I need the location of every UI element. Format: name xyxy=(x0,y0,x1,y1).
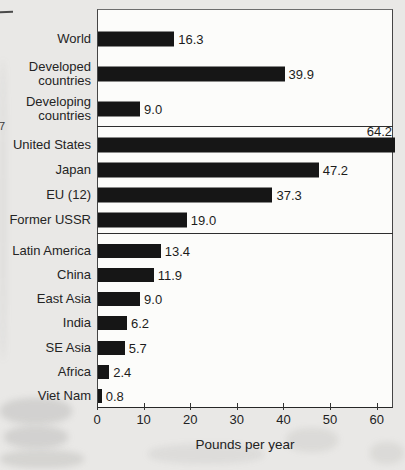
category-label: Developing countries xyxy=(0,95,97,123)
bar-value-label: 2.4 xyxy=(113,364,131,379)
axis-tick xyxy=(237,403,238,410)
bar xyxy=(98,292,140,306)
category-label: SE Asia xyxy=(0,341,97,355)
chart-row: Africa2.4 xyxy=(0,360,394,384)
axis-tick-label: 30 xyxy=(230,412,244,427)
bar-value-label: 9.0 xyxy=(144,292,162,307)
bar-value-label: 13.4 xyxy=(165,244,190,259)
bar xyxy=(98,31,174,46)
bar-value-label: 9.0 xyxy=(144,102,162,117)
axis-tick-label: 10 xyxy=(136,412,150,427)
category-label: Africa xyxy=(0,365,97,379)
axis-tick xyxy=(377,403,378,410)
bar-track: 37.3 xyxy=(97,183,394,208)
axis-tick-label: 40 xyxy=(276,412,290,427)
category-label: Developed countries xyxy=(0,60,97,88)
bar-track: 0.8 xyxy=(97,384,394,408)
bar-value-label: 37.3 xyxy=(276,188,301,203)
bar-track: 11.9 xyxy=(97,263,394,287)
bar-value-label: 47.2 xyxy=(323,162,348,177)
scan-smudge xyxy=(0,450,84,468)
bar-track: 39.9 xyxy=(97,56,394,91)
category-label: EU (12) xyxy=(0,188,97,202)
bar-value-label: 39.9 xyxy=(289,66,314,81)
axis-tick xyxy=(144,403,145,410)
chart-row: SE Asia5.7 xyxy=(0,336,394,360)
chart-row: World16.3 xyxy=(0,21,394,56)
x-axis: 0102030405060 xyxy=(97,408,393,434)
bar xyxy=(98,365,109,379)
category-label: India xyxy=(0,316,97,330)
axis-tick xyxy=(330,403,331,410)
axis-tick xyxy=(97,403,98,410)
axis-tick-label: 60 xyxy=(369,412,383,427)
bar-value-label: 0.8 xyxy=(106,388,124,403)
x-axis-title: Pounds per year xyxy=(97,437,393,452)
axis-tick xyxy=(190,403,191,410)
chart-row: Latin America13.4 xyxy=(0,239,394,263)
bar xyxy=(98,102,140,117)
scan-smudge xyxy=(4,426,68,448)
bar-track: 19.0 xyxy=(97,208,394,233)
bar-track: 16.3 xyxy=(97,21,394,56)
chart-row: East Asia9.0 xyxy=(0,287,394,311)
chart-row: India6.2 xyxy=(0,311,394,335)
category-label: Japan xyxy=(0,163,97,177)
axis-tick-label: 0 xyxy=(93,412,100,427)
axis-tick-label: 20 xyxy=(183,412,197,427)
bar-track: 47.2 xyxy=(97,157,394,182)
bar-track: 5.7 xyxy=(97,336,394,360)
category-label: East Asia xyxy=(0,292,97,306)
bar-track: 2.4 xyxy=(97,360,394,384)
chart-row: China11.9 xyxy=(0,263,394,287)
bar xyxy=(98,213,187,228)
category-label: United States xyxy=(0,138,97,152)
chart-row: EU (12)37.3 xyxy=(0,183,394,208)
category-label: Latin America xyxy=(0,244,97,258)
bar-track: 9.0 xyxy=(97,92,394,127)
bar xyxy=(98,66,285,81)
bar xyxy=(98,389,102,403)
chart-row: United States64.2 xyxy=(0,132,394,157)
bar xyxy=(98,188,272,203)
bar-value-label: 19.0 xyxy=(191,213,216,228)
bar-track: 6.2 xyxy=(97,311,394,335)
bar-chart: World16.3Developed countries39.9Developi… xyxy=(0,9,394,408)
chart-group-world-aggregates: World16.3Developed countries39.9Developi… xyxy=(0,9,394,127)
bar xyxy=(98,162,319,177)
bar xyxy=(98,268,154,282)
chart-group-developed-regions: United States64.2Japan47.2EU (12)37.3For… xyxy=(0,127,394,233)
bar-track: 9.0 xyxy=(97,287,394,311)
bar-value-label: 6.2 xyxy=(131,316,149,331)
bar xyxy=(98,137,395,152)
bar-track: 13.4 xyxy=(97,239,394,263)
chart-row: Viet Nam0.8 xyxy=(0,384,394,408)
chart-row: Developing countries9.0 xyxy=(0,92,394,127)
category-label: China xyxy=(0,268,97,282)
axis-tick xyxy=(283,403,284,410)
chart-row: Former USSR19.0 xyxy=(0,208,394,233)
bar-value-label: 5.7 xyxy=(129,340,147,355)
bar xyxy=(98,244,161,258)
bar-track: 64.2 xyxy=(97,132,394,157)
chart-group-developing-regions: Latin America13.4China11.9East Asia9.0In… xyxy=(0,233,394,408)
bar xyxy=(98,316,127,330)
chart-row: Developed countries39.9 xyxy=(0,56,394,91)
category-label: Viet Nam xyxy=(0,389,97,403)
bar-value-label: 64.2 xyxy=(367,124,392,139)
scanned-figure-page: 7 World16.3Developed countries39.9Develo… xyxy=(0,0,405,470)
bar xyxy=(98,341,125,355)
chart-row: Japan47.2 xyxy=(0,157,394,182)
category-label: Former USSR xyxy=(0,213,97,227)
bar-value-label: 11.9 xyxy=(158,268,182,283)
axis-tick-label: 50 xyxy=(323,412,337,427)
bar-value-label: 16.3 xyxy=(178,31,203,46)
category-label: World xyxy=(0,32,97,46)
